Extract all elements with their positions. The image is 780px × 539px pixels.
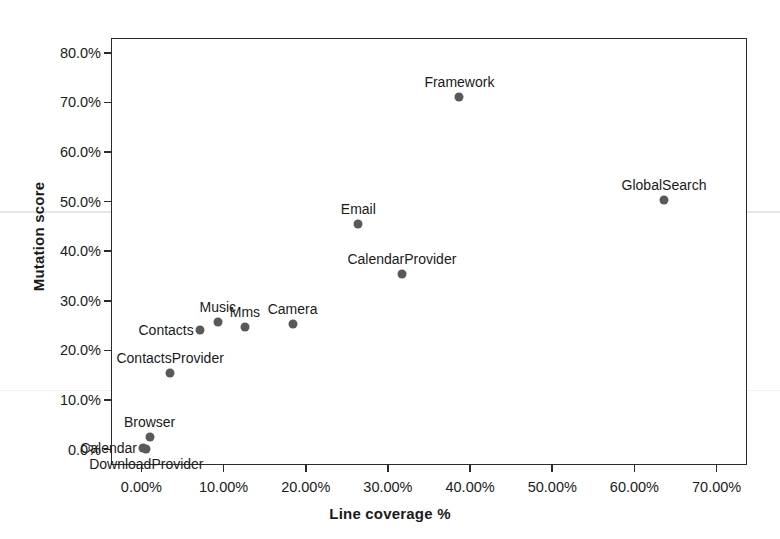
- y-axis-title: Mutation score: [30, 137, 47, 337]
- data-point-label: Browser: [124, 414, 175, 430]
- x-tick-mark: [469, 465, 471, 472]
- y-tick-label: 80.0%: [35, 45, 101, 61]
- x-axis-title: Line coverage %: [0, 505, 780, 522]
- x-tick-label: 70.00%: [662, 479, 772, 495]
- y-tick-mark: [104, 399, 111, 401]
- y-tick-label: 10.0%: [35, 392, 101, 408]
- y-tick-mark: [104, 52, 111, 54]
- data-point-label: ContactsProvider: [116, 350, 223, 366]
- data-point-label: Email: [341, 201, 376, 217]
- data-point: [288, 320, 297, 329]
- x-tick-mark: [551, 465, 553, 472]
- data-point: [240, 322, 249, 331]
- data-point: [166, 368, 175, 377]
- y-tick-mark: [104, 151, 111, 153]
- data-point-label: Contacts: [138, 322, 193, 338]
- data-point: [142, 444, 151, 453]
- y-tick-mark: [104, 250, 111, 252]
- data-point: [660, 195, 669, 204]
- scatter-chart: 0.0%10.0%20.0%30.0%40.0%50.0%60.0%70.0%8…: [0, 0, 780, 539]
- data-point-label: Mms: [230, 304, 260, 320]
- y-tick-label: 70.0%: [35, 94, 101, 110]
- y-tick-mark: [104, 201, 111, 203]
- data-point: [145, 432, 154, 441]
- x-tick-mark: [387, 465, 389, 472]
- x-tick-mark: [223, 465, 225, 472]
- y-tick-mark: [104, 300, 111, 302]
- y-tick-mark: [104, 350, 111, 352]
- x-tick-mark: [305, 465, 307, 472]
- data-point: [195, 325, 204, 334]
- x-tick-mark: [634, 465, 636, 472]
- data-point: [397, 269, 406, 278]
- data-point-label: DownloadProvider: [89, 456, 203, 472]
- data-point-label: CalendarProvider: [347, 251, 456, 267]
- data-point: [213, 317, 222, 326]
- data-point-label: Framework: [424, 74, 494, 90]
- data-point: [455, 92, 464, 101]
- data-point-label: Calendar: [80, 440, 137, 456]
- y-tick-label: 20.0%: [35, 342, 101, 358]
- data-point: [354, 219, 363, 228]
- x-tick-mark: [716, 465, 718, 472]
- data-point-label: Camera: [268, 301, 318, 317]
- data-point-label: GlobalSearch: [622, 177, 707, 193]
- y-tick-mark: [104, 102, 111, 104]
